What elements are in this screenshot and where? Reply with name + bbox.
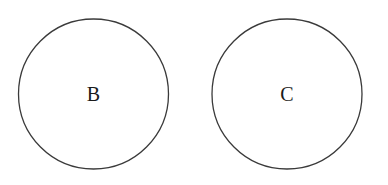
circle-c-group: C: [212, 19, 362, 169]
circle-b-group: B: [19, 19, 169, 169]
circle-c-label: C: [280, 83, 293, 105]
diagram-canvas: B C: [0, 0, 388, 185]
circle-b-label: B: [87, 83, 100, 105]
